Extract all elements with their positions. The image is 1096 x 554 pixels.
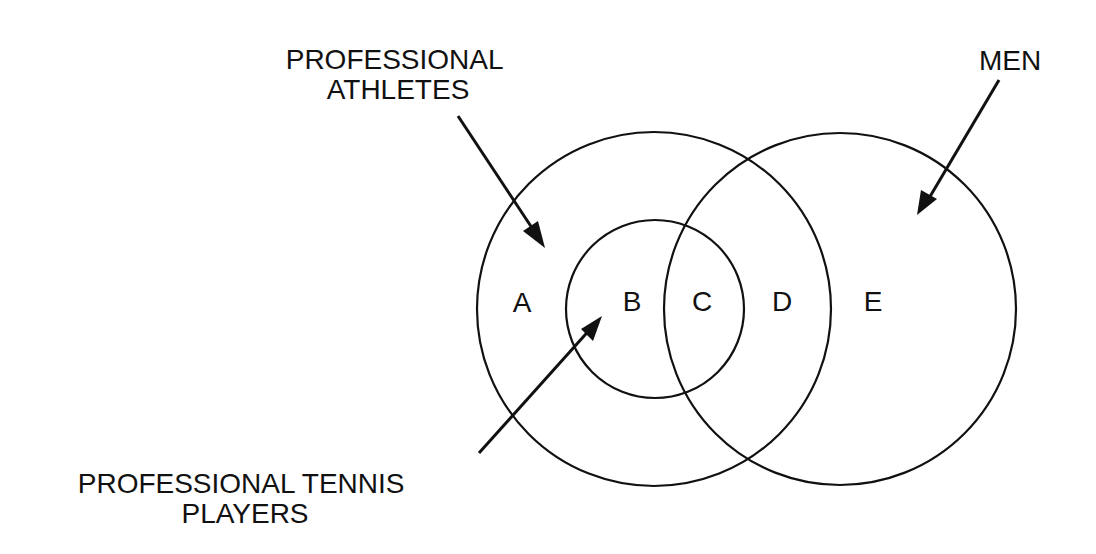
men-arrow-icon xyxy=(917,80,999,215)
men-label: MEN xyxy=(979,45,1041,76)
region-e-label: E xyxy=(864,286,883,317)
region-b-label: B xyxy=(623,286,642,317)
tennis-players-arrow-icon xyxy=(479,316,602,453)
region-c-label: C xyxy=(692,286,712,317)
tennis-players-label: PROFESSIONAL TENNIS PLAYERS xyxy=(78,468,413,529)
region-d-label: D xyxy=(772,286,792,317)
athletes-label: PROFESSIONAL ATHLETES xyxy=(286,44,511,105)
tennis-players-circle xyxy=(566,220,744,398)
venn-diagram: PROFESSIONAL ATHLETES MEN PROFESSIONAL T… xyxy=(0,0,1096,554)
region-a-label: A xyxy=(513,287,532,318)
men-circle xyxy=(664,133,1016,485)
